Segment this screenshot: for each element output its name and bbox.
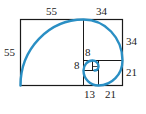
label-top-55: 55: [46, 5, 58, 17]
label-inner-left-8: 8: [74, 59, 80, 71]
label-right-34: 34: [126, 35, 138, 47]
label-bottom-13: 13: [84, 88, 96, 100]
label-inner-top-8: 8: [85, 46, 91, 58]
label-top-34: 34: [96, 5, 108, 17]
fibonacci-diagram: 55 34 55 34 21 8 8 13 21: [0, 0, 146, 114]
label-left-55: 55: [4, 46, 16, 58]
label-bottom-21: 21: [105, 88, 116, 100]
label-right-21: 21: [126, 66, 137, 78]
fibonacci-spiral: [21, 20, 123, 86]
